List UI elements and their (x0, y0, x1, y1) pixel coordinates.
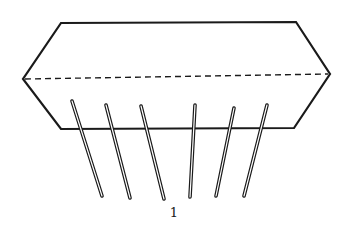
pin-3 (141, 106, 164, 199)
pin-2 (106, 105, 130, 198)
hidden-edge-dashed-line (25, 74, 328, 79)
pin-6 (244, 105, 267, 196)
pins-group (72, 101, 267, 199)
pin-1 (72, 101, 102, 196)
pin-5 (216, 108, 234, 196)
figure-caption: 1 (0, 205, 348, 220)
block-with-pins-diagram (0, 0, 348, 231)
hexagonal-block (23, 22, 330, 129)
